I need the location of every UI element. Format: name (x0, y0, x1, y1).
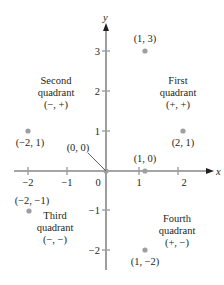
quadrant-label-third: Third quadrant (−, −) (37, 210, 74, 246)
x-tick-label: 1 (136, 177, 141, 188)
point-2-1 (180, 128, 185, 133)
point-1-3 (142, 48, 147, 53)
svg-text:(−, −): (−, −) (43, 234, 68, 246)
y-tick-label: 2 (95, 86, 100, 97)
point-label: (1, 0) (134, 153, 157, 165)
quadrant-label-second: Second quadrant (−, +) (38, 75, 75, 111)
point-1-0 (142, 168, 147, 173)
svg-text:Second: Second (41, 75, 73, 86)
svg-text:First: First (168, 75, 187, 86)
point-1-m2 (142, 247, 147, 252)
svg-text:quadrant: quadrant (37, 222, 74, 233)
point-label: (1, −2) (131, 256, 160, 268)
y-tick-label: −1 (89, 205, 100, 216)
quadrant-label-first: First quadrant (+, +) (160, 75, 197, 111)
point-label: (−2, −1) (15, 195, 50, 207)
point-label: (−2, 1) (16, 137, 45, 149)
point-m2-1 (25, 128, 30, 133)
svg-text:Fourth: Fourth (163, 213, 192, 224)
origin-leader-line (88, 153, 106, 171)
y-tick-labels: 3 2 1 −1 −2 (89, 46, 100, 256)
x-tick-label: −2 (22, 177, 33, 188)
x-tick-label: 2 (181, 177, 186, 188)
x-axis-label: x (215, 166, 221, 177)
svg-text:(+, −): (+, −) (165, 237, 190, 249)
point-label: (0, 0) (67, 142, 90, 154)
x-tick-label: −1 (61, 177, 72, 188)
y-tick-label: 1 (95, 126, 100, 137)
point-label: (2, 1) (172, 137, 195, 149)
svg-text:(+, +): (+, +) (166, 99, 191, 111)
coordinate-plane-diagram: x y −2 −1 0 1 2 3 2 1 −1 −2 (0, 0, 224, 285)
y-tick-label: −2 (89, 245, 100, 256)
svg-text:quadrant: quadrant (38, 87, 75, 98)
x-tick-label: 0 (95, 177, 100, 188)
x-axis: x (14, 166, 221, 177)
x-axis-arrow-icon (206, 168, 214, 174)
svg-text:Third: Third (43, 210, 67, 221)
svg-text:quadrant: quadrant (159, 225, 196, 236)
svg-text:(−, +): (−, +) (44, 99, 69, 111)
y-axis-label: y (102, 12, 108, 23)
quadrant-label-fourth: Fourth quadrant (+, −) (159, 213, 196, 249)
svg-text:quadrant: quadrant (160, 87, 197, 98)
x-tick-labels: −2 −1 0 1 2 (22, 177, 186, 188)
y-tick-label: 3 (95, 46, 100, 57)
point-label: (1, 3) (134, 33, 157, 45)
point-m2-m1 (26, 208, 31, 213)
y-axis-arrow-icon (103, 23, 109, 31)
